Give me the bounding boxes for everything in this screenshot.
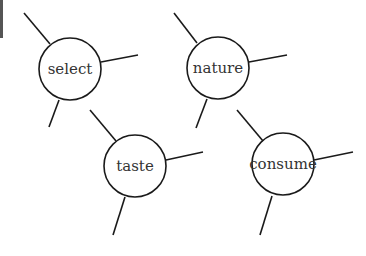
concept-web-diagram: select nature taste consume (0, 0, 366, 256)
node-label-consume: consume (249, 155, 317, 173)
node-nature: nature (174, 13, 287, 128)
spoke-line (101, 55, 138, 62)
node-label-nature: nature (193, 59, 243, 77)
spoke-line (90, 110, 116, 141)
node-label-select: select (48, 60, 93, 78)
spoke-line (49, 100, 59, 127)
spoke-line (196, 99, 207, 128)
spoke-line (166, 152, 203, 160)
spoke-line (24, 13, 50, 44)
spoke-line (174, 13, 197, 43)
node-select: select (24, 13, 138, 127)
spoke-line (113, 197, 125, 235)
spoke-line (260, 196, 272, 235)
node-consume: consume (237, 110, 353, 235)
spoke-line (314, 152, 353, 160)
spoke-line (249, 55, 287, 62)
node-taste: taste (90, 110, 203, 235)
node-label-taste: taste (116, 157, 154, 175)
spoke-line (237, 110, 263, 141)
